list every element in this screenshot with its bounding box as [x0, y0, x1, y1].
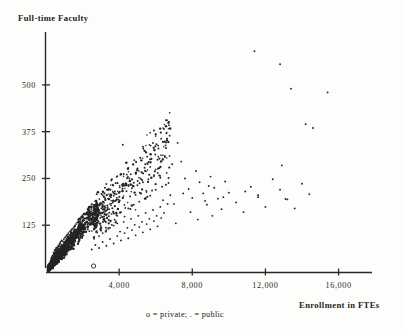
data-point-public — [221, 208, 223, 210]
data-point-public — [126, 174, 128, 176]
data-point-public — [149, 195, 151, 197]
data-point-public — [222, 196, 224, 198]
data-point-public — [140, 193, 142, 195]
data-point-public — [294, 207, 296, 209]
data-point-public — [136, 184, 138, 186]
data-point-public — [66, 245, 68, 247]
data-point-public — [146, 196, 148, 198]
data-point-public — [113, 225, 115, 227]
data-point-public — [180, 161, 182, 163]
data-point-public — [59, 243, 61, 245]
data-point-public — [52, 259, 54, 261]
data-point-public — [65, 253, 67, 255]
data-point-public — [96, 193, 98, 195]
data-point-public — [104, 187, 106, 189]
chart-svg: Full-time Faculty 125250375500 4,0008,00… — [0, 0, 405, 334]
data-point-public — [191, 197, 193, 199]
data-point-public — [149, 166, 151, 168]
data-point-public — [97, 208, 99, 210]
data-point-public — [114, 205, 116, 207]
data-point-public — [169, 135, 171, 137]
data-point-public — [127, 207, 129, 209]
data-point-public — [99, 228, 101, 230]
data-point-public — [159, 206, 161, 208]
y-axis-title: Full-time Faculty — [18, 13, 89, 23]
data-point-public — [154, 154, 156, 156]
data-point-public — [169, 194, 171, 196]
data-point-public — [104, 220, 106, 222]
data-point-public — [157, 168, 159, 170]
data-point-public — [157, 159, 159, 161]
data-point-public — [184, 178, 186, 180]
data-point-public — [94, 244, 96, 246]
data-point-public — [102, 221, 104, 223]
data-point-public — [148, 218, 150, 220]
data-point-public — [142, 231, 144, 233]
data-point-public — [98, 198, 100, 200]
data-point-public — [123, 195, 125, 197]
data-point-public — [135, 234, 137, 236]
data-point-public — [208, 185, 210, 187]
data-point-public — [61, 246, 63, 248]
data-point-public — [95, 206, 97, 208]
data-point-public — [130, 218, 132, 220]
data-point-public — [150, 177, 152, 179]
data-point-public — [59, 257, 61, 259]
data-point-public — [124, 232, 126, 234]
data-point-public — [137, 180, 139, 182]
data-point-public — [115, 193, 117, 195]
data-point-public — [125, 185, 127, 187]
data-point-public — [110, 204, 112, 206]
data-point-public — [111, 213, 113, 215]
data-point-public — [74, 225, 76, 227]
data-point-public — [108, 212, 110, 214]
data-point-public — [159, 127, 161, 129]
data-point-public — [154, 145, 156, 147]
data-point-private — [91, 264, 95, 268]
data-point-public — [87, 228, 89, 230]
data-point-public — [134, 224, 136, 226]
data-point-public — [56, 261, 58, 263]
data-point-public — [96, 222, 98, 224]
data-point-public — [108, 222, 110, 224]
data-point-public — [129, 208, 131, 210]
data-point-public — [115, 214, 117, 216]
data-point-public — [78, 237, 80, 239]
data-point-public — [165, 147, 167, 149]
data-point-public — [123, 204, 125, 206]
data-point-public — [142, 157, 144, 159]
data-point-public — [79, 236, 82, 239]
data-point-public — [103, 202, 105, 204]
data-point-public — [81, 216, 84, 219]
data-point-public — [112, 184, 114, 186]
data-point-public — [116, 197, 118, 199]
data-point-public — [160, 217, 162, 219]
data-point-public — [56, 259, 58, 261]
data-point-public — [64, 255, 66, 257]
data-point-public — [168, 128, 170, 130]
data-point-public — [160, 154, 162, 156]
data-point-public — [254, 50, 256, 52]
data-point-public — [124, 188, 126, 190]
data-point-public — [110, 200, 112, 202]
data-point-public — [197, 219, 199, 221]
data-point-public — [162, 159, 164, 161]
data-point-public — [162, 127, 164, 129]
data-point-public — [110, 179, 112, 181]
data-point-public — [111, 224, 113, 226]
data-point-public — [138, 177, 140, 179]
data-point-public — [98, 221, 100, 223]
data-point-public — [119, 186, 121, 188]
data-point-public — [114, 219, 116, 221]
data-point-public — [164, 124, 166, 126]
data-point-public — [55, 254, 58, 257]
data-point-public — [204, 200, 206, 202]
data-point-public — [167, 203, 169, 205]
data-point-public — [166, 172, 168, 174]
data-point-public — [79, 225, 81, 227]
data-point-public — [160, 131, 162, 133]
data-point-public — [75, 237, 77, 239]
data-point-public — [149, 132, 151, 134]
data-point-public — [140, 159, 142, 161]
y-tick-label: 500 — [22, 81, 36, 90]
